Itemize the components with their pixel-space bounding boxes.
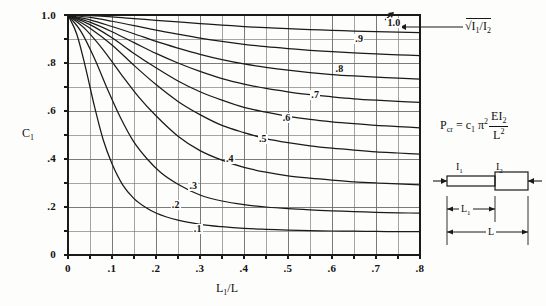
diagram-I1-sub: 1 bbox=[459, 167, 463, 175]
x-axis-title-tail: /L bbox=[227, 281, 238, 295]
curve-label-p7: .7 bbox=[310, 90, 320, 100]
x-tick-label: 0 bbox=[55, 262, 81, 274]
curve-label-p4: .4 bbox=[225, 154, 235, 164]
x-tick-label: .7 bbox=[363, 262, 389, 274]
formula-fraction-numerator: EI2 bbox=[489, 110, 508, 127]
x-tick-label: .8 bbox=[407, 262, 433, 274]
curve-label-p3: .3 bbox=[188, 181, 198, 191]
x-axis-title: L1/L bbox=[216, 281, 238, 297]
formula-EI-sub: 2 bbox=[502, 116, 506, 125]
y-axis-title-text: C bbox=[22, 126, 30, 140]
formula-EI: EI bbox=[491, 109, 502, 123]
curve-label-p9: .9 bbox=[354, 34, 364, 44]
curve-label-p2: .2 bbox=[171, 200, 181, 210]
dimension-arrowhead-L-left bbox=[447, 230, 453, 235]
formula-pi-sup: 2 bbox=[484, 117, 488, 126]
plot-canvas bbox=[0, 0, 546, 306]
curve-label-p6: .6 bbox=[282, 113, 292, 123]
diagram-label-L: L bbox=[486, 226, 496, 237]
chart-figure: 1.0 .8 .6 .4 .2 0 C1 0.1.2.3.4.5.6.7.8 L… bbox=[0, 0, 546, 306]
load-arrowhead-right bbox=[528, 178, 534, 184]
radical-icon: √I1/I2 bbox=[466, 18, 491, 35]
column-segment-I1 bbox=[447, 176, 495, 186]
diagram-label-I2: I2 bbox=[496, 161, 503, 175]
formula-P-sub: cr bbox=[447, 125, 453, 134]
axis-ticks bbox=[64, 15, 420, 259]
legend-sqrt-glyph: √ bbox=[465, 19, 472, 33]
dimension-arrowhead-L-right bbox=[522, 230, 528, 235]
dimension-arrowhead-L1-right bbox=[489, 207, 495, 212]
x-tick-label: .4 bbox=[231, 262, 257, 274]
formula-fraction-denominator: L2 bbox=[489, 127, 508, 143]
diagram-L1-sub: 1 bbox=[467, 209, 471, 217]
legend-numerator-sub: 1 bbox=[476, 26, 480, 35]
curve-label-p5: .5 bbox=[258, 134, 268, 144]
formula-equals: = bbox=[456, 118, 463, 132]
dimension-arrowhead-L1-left bbox=[447, 207, 453, 212]
legend-label: √I1/I2 bbox=[466, 18, 491, 35]
x-tick-label: .6 bbox=[319, 262, 345, 274]
legend-denominator-sub: 2 bbox=[487, 26, 491, 35]
formula-P: P bbox=[440, 118, 447, 132]
x-tick-label: .3 bbox=[187, 262, 213, 274]
load-arrowhead-left bbox=[441, 178, 447, 184]
y-tick-label: 1.0 bbox=[22, 9, 56, 21]
diagram-I2-sub: 2 bbox=[499, 167, 503, 175]
y-tick-label: .8 bbox=[22, 56, 56, 68]
critical-load-formula: Pcr = c1 π2EI2L2 bbox=[440, 110, 509, 142]
y-tick-label: .4 bbox=[22, 152, 56, 164]
curve-label-p1: .1 bbox=[193, 224, 203, 234]
diagram-label-I1: I1 bbox=[456, 161, 463, 175]
formula-fraction: EI2L2 bbox=[489, 110, 508, 142]
diagram-L-text: L bbox=[488, 226, 494, 237]
y-tick-label: 0 bbox=[22, 248, 56, 260]
curve-label-1p0: 1.0 bbox=[386, 18, 401, 28]
curve-label-p8: .8 bbox=[334, 64, 344, 74]
y-axis-title: C1 bbox=[22, 126, 34, 142]
formula-c-sub: 1 bbox=[471, 125, 475, 134]
y-axis-title-subscript: 1 bbox=[30, 133, 34, 142]
x-tick-label: .5 bbox=[275, 262, 301, 274]
y-tick-label: .6 bbox=[22, 104, 56, 116]
y-tick-label: .2 bbox=[22, 200, 56, 212]
diagram-label-L1: L1 bbox=[459, 203, 473, 217]
x-tick-label: .1 bbox=[99, 262, 125, 274]
formula-L-sup: 2 bbox=[500, 127, 504, 136]
x-tick-label: .2 bbox=[143, 262, 169, 274]
